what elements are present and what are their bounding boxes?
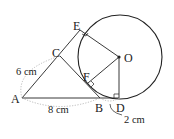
label-O: O [124, 51, 133, 65]
measure-BD: 2 cm [124, 114, 145, 125]
label-D: D [116, 101, 125, 115]
geometry-diagram: A B C D E F O 6 cm 8 cm 2 cm [0, 0, 174, 139]
label-A: A [11, 92, 20, 106]
measure-AC: 6 cm [16, 66, 37, 77]
segment-EO [80, 30, 119, 57]
label-C: C [52, 46, 60, 60]
label-F: F [83, 70, 90, 84]
right-angle-F [91, 81, 94, 87]
segment-OF [88, 57, 119, 83]
label-B: B [95, 101, 103, 115]
segment-AE [22, 30, 80, 98]
measure-AB: 8 cm [48, 104, 69, 115]
label-E: E [73, 19, 80, 33]
right-angle-D [114, 94, 119, 98]
center-dot-O [117, 55, 120, 58]
segment-CB [60, 56, 100, 98]
